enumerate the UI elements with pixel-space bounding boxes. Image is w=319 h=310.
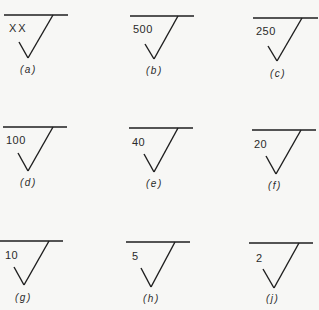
roughness-symbol-j: 2 (j) (0, 0, 319, 310)
roughness-value: 2 (256, 253, 263, 264)
surface-finish-check-icon (0, 0, 319, 310)
symbol-caption: (j) (266, 294, 279, 304)
